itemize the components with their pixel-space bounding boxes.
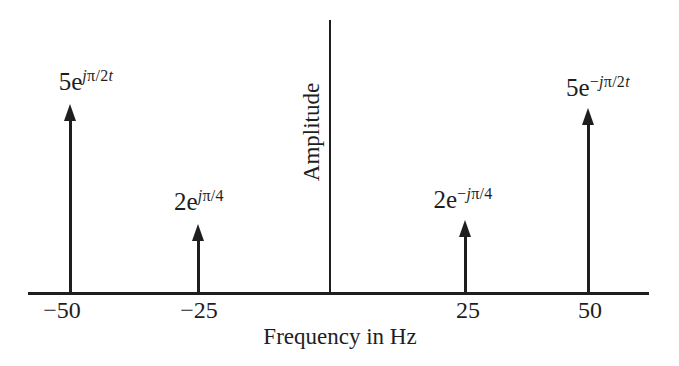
x-tick-neg50: −50 [22, 297, 102, 324]
arrow-up-icon [459, 220, 471, 237]
stem-line-neg25hz [197, 239, 200, 292]
y-axis-label: Amplitude [299, 32, 325, 232]
x-tick-pos25: 25 [428, 297, 508, 324]
arrow-up-icon [192, 224, 204, 241]
exp-minus: − [590, 73, 599, 90]
label-base: 2e [174, 188, 198, 215]
label-exponent: −jπ/2t [590, 73, 630, 90]
stem-line-pos50hz [587, 123, 590, 292]
x-axis-label: Frequency in Hz [240, 324, 440, 350]
arrow-up-icon [64, 104, 76, 121]
x-tick-pos50: 50 [550, 297, 630, 324]
label-exponent: −jπ/4 [457, 185, 493, 202]
exp-pi-fraction: π/4 [202, 187, 223, 204]
label-exponent: jπ/4 [198, 187, 224, 204]
exp-pi-fraction: π/2 [87, 67, 108, 84]
exp-t: t [625, 73, 630, 90]
stem-amplitude-label-pos25hz: 2e−jπ/4 [408, 186, 518, 214]
y-axis-line [329, 20, 331, 292]
stem-amplitude-label-neg50hz: 5ejπ/2t [31, 68, 141, 96]
exp-minus: − [457, 185, 466, 202]
label-base: 5e [59, 68, 83, 95]
arrow-up-icon [582, 108, 594, 125]
stem-amplitude-label-pos50hz: 5e−jπ/2t [543, 74, 653, 102]
stem-line-neg50hz [69, 119, 72, 292]
exp-pi-fraction: π/2 [604, 73, 625, 90]
label-base: 5e [566, 74, 590, 101]
stem-amplitude-label-neg25hz: 2ejπ/4 [144, 188, 254, 216]
exp-t: t [109, 67, 114, 84]
frequency-spectrum-figure: Amplitude Frequency in Hz 5ejπ/2t 2ejπ/4… [0, 0, 679, 366]
x-tick-neg25: −25 [159, 297, 239, 324]
label-exponent: jπ/2t [82, 67, 113, 84]
label-base: 2e [433, 186, 457, 213]
stem-line-pos25hz [464, 235, 467, 292]
x-axis-line [28, 292, 649, 295]
exp-pi-fraction: π/4 [471, 185, 492, 202]
